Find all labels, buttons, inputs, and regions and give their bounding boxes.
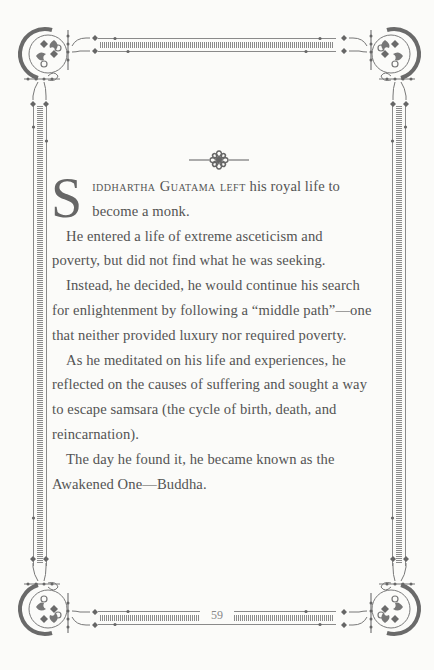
paragraph-4: As he meditated on his life and experien…: [52, 348, 374, 447]
dropcap: S: [51, 176, 82, 220]
paragraph-2: He entered a life of extreme asceticism …: [52, 224, 374, 274]
corner-ornament-top-left-icon: [20, 29, 98, 107]
page-number: 59: [200, 608, 234, 623]
article-body: Siddhartha Guatama left his royal life t…: [52, 174, 374, 496]
fleuron-icon: [187, 148, 251, 172]
corner-ornament-bottom-left-icon: [20, 556, 98, 634]
corner-ornament-top-right-icon: [341, 29, 419, 107]
paragraph-1: Siddhartha Guatama left his royal life t…: [52, 174, 374, 224]
lead-smallcaps: iddhartha Guatama left: [92, 178, 246, 194]
paragraph-3: Instead, he decided, he would continue h…: [52, 273, 374, 347]
corner-ornament-bottom-right-icon: [341, 556, 419, 634]
paragraph-5: The day he found it, he became known as …: [52, 447, 374, 497]
